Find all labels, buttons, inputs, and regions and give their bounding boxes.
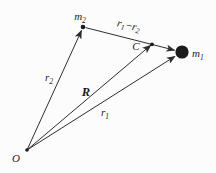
mass2-label: m2 bbox=[74, 10, 86, 25]
two-body-vector-diagram: O m2 r2 R r1 C m1 r1−r2 bbox=[0, 0, 216, 173]
center-of-mass-label: C bbox=[132, 40, 140, 52]
vector-r2-arrow bbox=[27, 31, 82, 151]
vector-R-label: R bbox=[81, 85, 90, 99]
origin-point bbox=[25, 148, 29, 152]
mass2-point bbox=[81, 25, 86, 30]
diagram-points bbox=[25, 25, 188, 152]
vector-r1-label: r1 bbox=[101, 106, 109, 121]
mass1-point bbox=[175, 45, 188, 58]
mass1-label: m1 bbox=[192, 47, 204, 62]
center-of-mass-point bbox=[150, 42, 154, 46]
vector-r2-label: r2 bbox=[45, 71, 53, 86]
origin-label: O bbox=[12, 152, 20, 164]
vector-r1-minus-r2-label: r1−r2 bbox=[116, 17, 142, 36]
diagram-canvas: O m2 r2 R r1 C m1 r1−r2 bbox=[0, 0, 216, 173]
